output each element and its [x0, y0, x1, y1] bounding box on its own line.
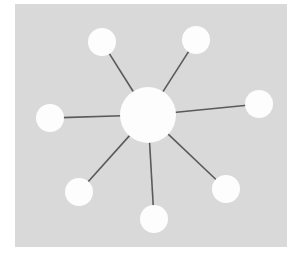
node-bottom-left[interactable] — [65, 178, 93, 206]
node-right-circle[interactable] — [245, 90, 273, 118]
hub-circle[interactable] — [120, 87, 176, 143]
node-bottom-circle[interactable] — [140, 205, 168, 233]
node-top-left[interactable] — [88, 28, 116, 56]
hub-node[interactable] — [120, 87, 176, 143]
node-left[interactable] — [36, 104, 64, 132]
node-top-right[interactable] — [182, 26, 210, 54]
node-bottom-right-circle[interactable] — [212, 175, 240, 203]
node-left-circle[interactable] — [36, 104, 64, 132]
node-bottom[interactable] — [140, 205, 168, 233]
network-diagram — [0, 0, 301, 264]
node-right[interactable] — [245, 90, 273, 118]
diagram-canvas — [0, 0, 301, 264]
node-top-left-circle[interactable] — [88, 28, 116, 56]
node-top-right-circle[interactable] — [182, 26, 210, 54]
node-bottom-left-circle[interactable] — [65, 178, 93, 206]
node-bottom-right[interactable] — [212, 175, 240, 203]
